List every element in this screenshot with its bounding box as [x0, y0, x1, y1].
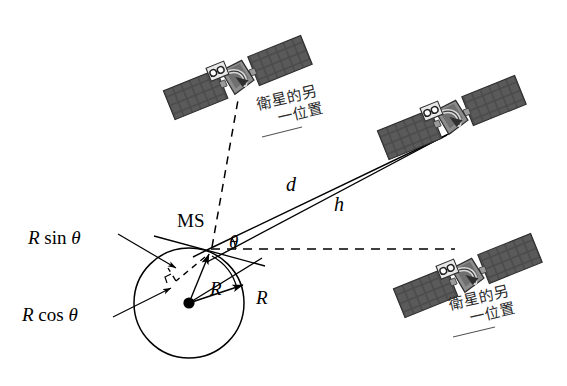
ms-label: MS [177, 211, 204, 230]
distance-h-label: h [334, 194, 344, 214]
distance-line-d [211, 135, 447, 248]
theta-label: θ [229, 232, 238, 251]
right-angle-mark [165, 274, 171, 283]
radius-label-ms: R [210, 279, 222, 298]
satellite-icon-main [376, 71, 527, 160]
leader-line-r-cos-theta [113, 288, 171, 317]
dashed-leg-vertical [176, 257, 205, 281]
diagram-vector-layer [0, 0, 567, 386]
diagram-canvas: MS θ d h R R R sin θ R cos θ 衛星的另 一位置 衛星… [0, 0, 567, 386]
radius-label-right: R [256, 288, 268, 307]
r-cos-theta-label: R cos θ [22, 305, 78, 324]
radius-arrow-to-ms [189, 254, 209, 303]
distance-line-h [207, 132, 452, 262]
theta-symbol: θ [229, 231, 238, 252]
distance-d-label: d [286, 174, 296, 194]
r-sin-theta-label: R sin θ [28, 228, 81, 247]
sightline-dashed-top-satellite [212, 100, 238, 247]
center-to-horizon-line [189, 258, 262, 303]
